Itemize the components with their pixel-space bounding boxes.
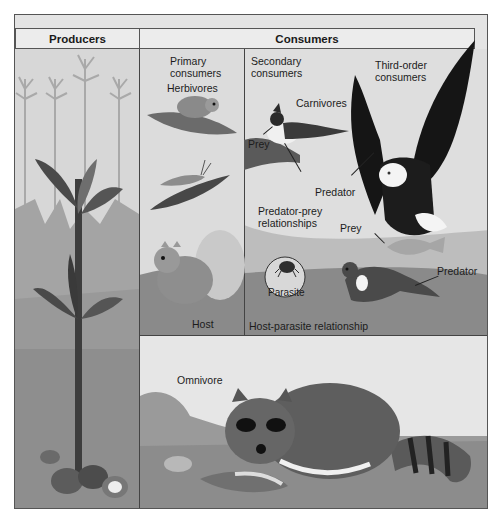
predator-bird-label: Predator [315,186,355,198]
predator-otter-label: Predator [437,265,477,277]
food-web-frame: Producers Consumers Primary consumers He… [14,14,488,509]
parasite-label: Parasite [268,287,305,299]
prey-bird-label: Prey [248,138,270,150]
predator-prey-label-2: relationships [258,217,317,229]
prey-fish-label: Prey [340,222,362,234]
host-parasite-label: Host-parasite relationship [249,320,368,332]
omnivore-illustration [140,336,488,509]
omnivore-label: Omnivore [177,374,223,386]
omnivore-panel [140,336,488,509]
host-label: Host [192,318,214,330]
predator-prey-label-1: Predator-prey [258,205,322,217]
